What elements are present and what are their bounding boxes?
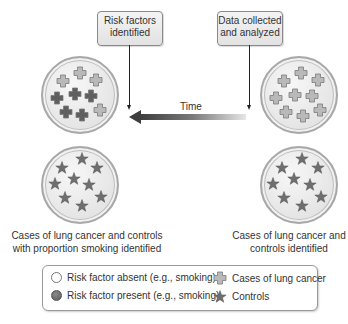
caption-line2: controls identified — [230, 242, 348, 255]
left-caption: Cases of lung cancer and controls with p… — [0, 229, 174, 255]
star-icon — [91, 162, 103, 174]
star-icon — [76, 153, 88, 165]
cross-icon-absent — [57, 75, 69, 87]
right-connector-arrowhead — [247, 105, 251, 110]
star-icon — [288, 173, 300, 185]
star-icon — [56, 162, 68, 174]
box-text-line1: Risk factors — [98, 15, 162, 27]
filled-circle-icon — [51, 290, 62, 301]
cross-icon-absent — [289, 89, 301, 101]
cross-icon-absent — [94, 104, 106, 116]
left-cases-glyphs — [41, 56, 119, 134]
star-icon — [315, 191, 327, 203]
cross-icon-absent — [90, 74, 102, 86]
caption-line2: with proportion smoking identified — [0, 242, 174, 255]
legend-item-cases: Cases of lung cancer — [213, 271, 326, 285]
right-controls-glyphs — [260, 146, 338, 224]
star-icon — [76, 200, 88, 212]
star-icon — [95, 191, 107, 203]
legend: Risk factor absent (e.g., smoking) Risk … — [42, 265, 318, 311]
star-icon — [296, 200, 308, 212]
legend-item-absent: Risk factor absent (e.g., smoking) — [51, 272, 216, 283]
right-cases-glyphs — [260, 56, 338, 134]
star-icon — [83, 179, 95, 191]
right-connector-line — [249, 45, 250, 106]
caption-line1: Cases of lung cancer and — [230, 229, 348, 242]
star-icon — [312, 162, 324, 174]
star-icon — [59, 192, 71, 204]
legend-label: Cases of lung cancer — [232, 273, 326, 284]
legend-item-present: Risk factor present (e.g., smoking) — [51, 290, 219, 301]
legend-label: Risk factor present (e.g., smoking) — [67, 290, 219, 301]
cross-icon-absent — [314, 104, 326, 116]
cross-icon-present — [51, 92, 63, 104]
risk-factors-identified-box: Risk factors identified — [97, 11, 163, 46]
cross-icon-absent — [312, 74, 324, 86]
star-icon — [304, 179, 316, 191]
cross-icon-present — [60, 106, 72, 118]
time-label: Time — [180, 101, 202, 112]
cross-icon-absent — [280, 106, 292, 118]
cross-icon-absent — [278, 75, 290, 87]
right-caption: Cases of lung cancer and controls identi… — [230, 229, 348, 255]
cross-icon — [213, 271, 227, 285]
star-icon — [267, 178, 279, 190]
cross-icon-present — [69, 88, 81, 100]
time-arrow-shaft — [140, 114, 246, 120]
left-connector-line — [129, 45, 130, 106]
star-icon — [276, 162, 288, 174]
star-icon — [49, 178, 61, 190]
legend-item-controls: Controls — [213, 289, 269, 303]
data-collected-box: Data collected and analyzed — [217, 11, 283, 46]
left-controls-glyphs — [41, 146, 119, 224]
box-text-line2: identified — [98, 27, 162, 39]
star-icon — [278, 192, 290, 204]
star-icon — [68, 173, 80, 185]
cross-icon-absent — [297, 110, 309, 122]
cross-icon-absent — [270, 92, 282, 104]
cross-icon-present — [76, 109, 88, 121]
box-text-line1: Data collected — [218, 15, 282, 27]
cross-icon-present — [85, 90, 97, 102]
legend-label: Controls — [232, 291, 269, 302]
caption-line1: Cases of lung cancer and controls — [0, 229, 174, 242]
star-icon — [296, 153, 308, 165]
empty-circle-icon — [51, 272, 62, 283]
legend-label: Risk factor absent (e.g., smoking) — [67, 272, 216, 283]
star-icon — [213, 289, 227, 303]
time-arrow-head — [129, 110, 141, 124]
cross-icon-absent — [295, 67, 307, 79]
cross-icon-absent — [306, 90, 318, 102]
cross-icon-absent — [74, 67, 86, 79]
box-text-line2: and analyzed — [218, 27, 282, 39]
